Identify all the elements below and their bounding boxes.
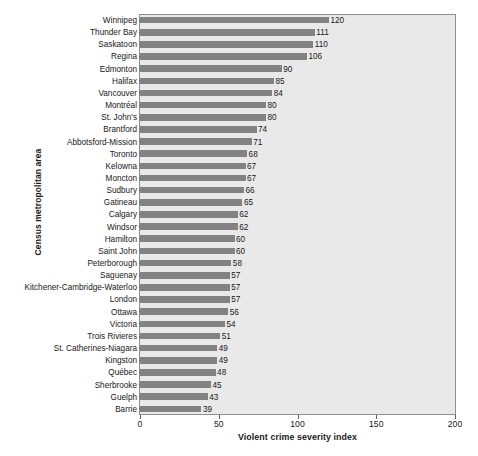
bar [140, 78, 274, 85]
x-axis-tick-label: 50 [214, 419, 224, 429]
bar [140, 333, 220, 340]
bar [140, 53, 307, 60]
bar [140, 345, 217, 352]
x-axis-tick-label: 200 [448, 419, 462, 429]
bar [140, 41, 313, 48]
bar [140, 260, 231, 267]
bar [140, 126, 257, 133]
bar [140, 187, 244, 194]
bar [140, 199, 242, 206]
bar [140, 223, 238, 230]
bar [140, 175, 246, 182]
bar [140, 393, 208, 400]
bar [140, 211, 238, 218]
bar [140, 321, 225, 328]
bar [140, 381, 211, 388]
bar [140, 284, 230, 291]
bar [140, 90, 272, 97]
bar [140, 272, 230, 279]
bar [140, 29, 315, 36]
x-axis-tick-label: 0 [138, 419, 143, 429]
bar [140, 114, 266, 121]
x-axis-title: Violent crime severity index [139, 432, 456, 442]
bar [140, 138, 252, 145]
bar [140, 163, 246, 170]
bar [140, 369, 216, 376]
bar [140, 308, 228, 315]
bar [140, 65, 282, 72]
x-axis-tick-label: 150 [369, 419, 383, 429]
bar [140, 150, 247, 157]
bar [140, 248, 235, 255]
x-axis-ticks [0, 415, 478, 421]
bar [140, 406, 201, 413]
bar-rows: Winnipeg120Thunder Bay111Saskatoon110Reg… [0, 14, 478, 415]
bar [140, 235, 235, 242]
bar [140, 102, 266, 109]
bar [140, 357, 217, 364]
bar [140, 296, 230, 303]
x-axis-tick-label: 100 [290, 419, 304, 429]
bar [140, 17, 329, 24]
bar-chart: Census metropolitan area Winnipeg120Thun… [0, 0, 478, 456]
